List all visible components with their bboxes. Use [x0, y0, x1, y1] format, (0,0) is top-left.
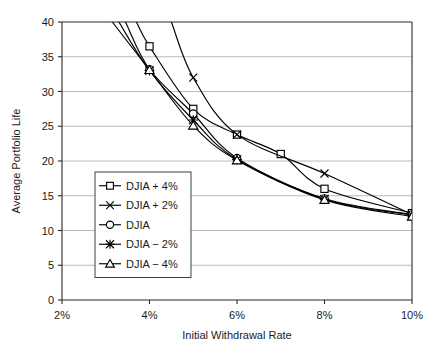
x-tick-label-8: 8% [317, 309, 333, 321]
y-tick-label-15: 15 [42, 190, 54, 202]
legend-marker-3-star-icon [105, 240, 114, 249]
y-tick-label-10: 10 [42, 225, 54, 237]
data-point-0-4 [321, 185, 328, 192]
chart-legend: DJIA + 4%DJIA + 2%DJIADJIA − 2%DJIA − 4% [95, 172, 191, 278]
legend-label-2: DJIA [126, 219, 151, 231]
y-tick-label-35: 35 [42, 51, 54, 63]
y-tick-label-20: 20 [42, 155, 54, 167]
x-tick-label-10: 10% [401, 309, 423, 321]
average-portfolio-life-line-chart: 0510152025303540 2%4%6%8%10% DJIA + 4%DJ… [0, 0, 431, 350]
legend-marker-2 [106, 221, 113, 228]
y-tick-label-25: 25 [42, 120, 54, 132]
y-axis-title: Average Portfolio Life [10, 109, 22, 214]
legend-label-4: DJIA − 4% [126, 258, 178, 270]
y-tick-label-30: 30 [42, 86, 54, 98]
legend-marker-0-square-icon [107, 182, 114, 189]
x-tick-label-6: 6% [229, 309, 245, 321]
legend-label-3: DJIA − 2% [126, 238, 178, 250]
x-tick-label-2: 2% [54, 309, 70, 321]
legend-marker-0 [107, 182, 114, 189]
data-point-0-0-square-icon [146, 43, 153, 50]
chart-container: 0510152025303540 2%4%6%8%10% DJIA + 4%DJ… [0, 0, 431, 350]
x-tick-label-4: 4% [142, 309, 158, 321]
y-tick-label-0: 0 [48, 294, 54, 306]
y-tick-label-40: 40 [42, 16, 54, 28]
legend-label-1: DJIA + 2% [126, 199, 178, 211]
legend-label-0: DJIA + 4% [126, 180, 178, 192]
x-axis-title: Initial Withdrawal Rate [182, 329, 291, 341]
legend-marker-2-circle-icon [106, 221, 113, 228]
data-point-0-4-square-icon [321, 185, 328, 192]
y-tick-label-5: 5 [48, 259, 54, 271]
data-point-0-0 [146, 43, 153, 50]
legend-marker-3 [105, 240, 114, 249]
